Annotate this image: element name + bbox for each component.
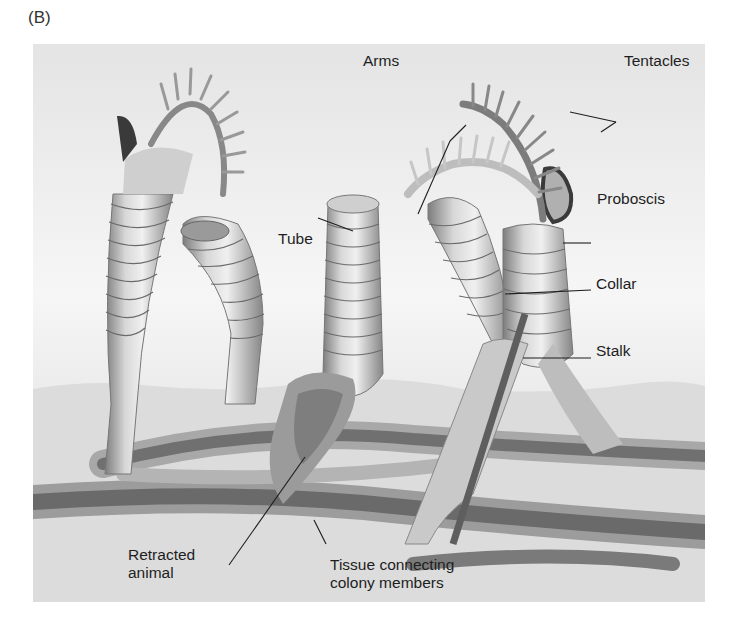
label-tube: Tube <box>278 230 313 248</box>
label-stalk: Stalk <box>596 342 630 360</box>
label-retracted-animal: Retracted animal <box>128 546 195 582</box>
label-proboscis: Proboscis <box>597 190 665 208</box>
label-arms: Arms <box>363 52 399 70</box>
label-tissue-connecting: Tissue connecting colony members <box>330 556 454 592</box>
pterobranch-illustration: Arms Tentacles Proboscis Tube Collar Sta… <box>33 44 705 602</box>
label-retracted-line1: Retracted <box>128 546 195 564</box>
panel-label: (B) <box>28 8 51 28</box>
label-retracted-line2: animal <box>128 564 195 582</box>
label-collar: Collar <box>596 275 636 293</box>
label-tissue-line2: colony members <box>330 574 454 592</box>
label-tentacles: Tentacles <box>624 52 689 70</box>
label-tissue-line1: Tissue connecting <box>330 556 454 574</box>
illustration-canvas <box>33 44 705 602</box>
